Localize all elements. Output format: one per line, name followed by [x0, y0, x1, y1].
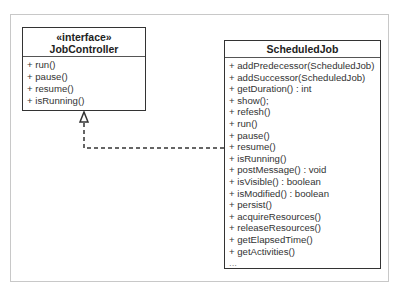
hollow-triangle-arrowhead-icon: [80, 112, 88, 122]
realization-connector: [0, 0, 398, 289]
dashed-line: [84, 122, 224, 148]
